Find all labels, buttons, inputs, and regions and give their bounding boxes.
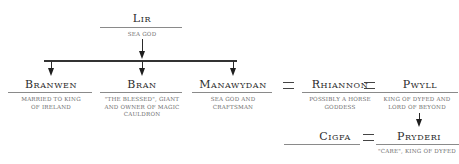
branwen-underline (8, 92, 92, 93)
bran-underline (100, 92, 182, 93)
cigfa-name: Cigfa (310, 130, 360, 143)
manawydan-desc-line-1: Sea god and (192, 96, 274, 104)
pwyll-description: King of Dyfed and lord of Beyond (374, 96, 459, 111)
rhiannon-desc-line-1: Possibly a horse (298, 96, 382, 104)
bran-name-text: Bran (127, 78, 156, 91)
bran-desc-line-3: cauldron (96, 111, 188, 119)
pwyll-underline (376, 92, 458, 93)
pwyll-desc-line-1: King of Dyfed and (374, 96, 459, 104)
lir-name: Lir (112, 12, 172, 25)
rhiannon-description: Possibly a horse goddess (298, 96, 382, 111)
branwen-desc-line-1: Married to King (5, 96, 97, 104)
pryderi-underline (376, 144, 459, 145)
pwyll-name: Pwyll (390, 78, 450, 91)
bran-description: "The Blessed", giant and owner of magic … (96, 96, 188, 119)
pwyll-desc-line-2: lord of Beyond (374, 104, 459, 112)
bran-desc-line-1: "The Blessed", giant (96, 96, 188, 104)
manawydan-name: Manawydan (190, 78, 276, 91)
bran-desc-line-2: and owner of magic (96, 104, 188, 112)
pryderi-name: Pryderi (386, 130, 452, 143)
lir-name-text: Lir (133, 12, 151, 25)
lir-arrow-icon (139, 51, 145, 59)
marriage-symbol-rhiannon-pwyll (364, 82, 375, 89)
sibling-bar (44, 60, 237, 62)
rhiannon-desc-line-2: goddess (298, 104, 382, 112)
rhiannon-underline (302, 92, 378, 93)
marriage-symbol-cigfa-pryderi (363, 134, 374, 141)
pryderi-desc-line-1: "Care", King of Dyfed (374, 148, 459, 156)
branwen-desc-line-2: of Ireland (5, 104, 97, 112)
branwen-arrow-icon (48, 68, 54, 76)
manawydan-desc-line-2: craftsman (192, 104, 274, 112)
branwen-name-text: Branwen (25, 78, 77, 91)
branwen-description: Married to King of Ireland (5, 96, 97, 111)
manawydan-underline (192, 92, 272, 93)
rhiannon-name-text: Rhiannon (312, 78, 369, 91)
branwen-name: Branwen (10, 78, 92, 91)
pryderi-name-text: Pryderi (397, 130, 441, 143)
pwyll-arrow-icon (416, 119, 422, 127)
lir-description: Sea god (112, 31, 172, 39)
cigfa-underline (284, 144, 360, 145)
marriage-symbol-manawydan-rhiannon (283, 82, 294, 89)
bran-name: Bran (110, 78, 174, 91)
lir-description-text: Sea god (128, 31, 157, 37)
lir-underline (100, 27, 182, 28)
pwyll-name-text: Pwyll (403, 78, 438, 91)
manawydan-arrow-icon (230, 68, 236, 76)
manawydan-name-text: Manawydan (199, 78, 267, 91)
pryderi-description: "Care", King of Dyfed (374, 148, 459, 156)
bran-arrow-icon (139, 68, 145, 76)
cigfa-name-text: Cigfa (319, 130, 351, 143)
manawydan-description: Sea god and craftsman (192, 96, 274, 111)
